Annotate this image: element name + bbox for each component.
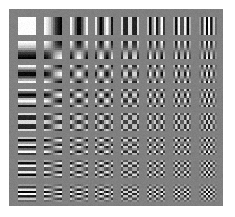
- basis-cell-u2-v2: [70, 65, 88, 83]
- basis-cell-u3-v7: [95, 184, 113, 202]
- basis-cell-u2-v7: [70, 184, 88, 202]
- basis-cell-u5-v6: [147, 160, 165, 178]
- basis-cell-overlay: [9, 9, 223, 206]
- basis-cell-u6-v5: [173, 137, 191, 155]
- basis-cell-u1-v3: [44, 89, 62, 107]
- basis-cell-u7-v7: [199, 184, 217, 202]
- basis-cell-u0-v2: [18, 65, 36, 83]
- basis-cell-u7-v1: [199, 41, 217, 59]
- basis-cell-u2-v4: [70, 113, 88, 131]
- basis-cell-u6-v6: [173, 160, 191, 178]
- basis-cell-u5-v2: [147, 65, 165, 83]
- basis-cell-u3-v4: [95, 113, 113, 131]
- basis-cell-u5-v1: [147, 41, 165, 59]
- basis-cell-u0-v0: [18, 17, 36, 35]
- basis-cell-u6-v0: [173, 17, 191, 35]
- basis-cell-u1-v0: [44, 17, 62, 35]
- basis-cell-u6-v3: [173, 89, 191, 107]
- basis-cell-u5-v0: [147, 17, 165, 35]
- basis-cell-u4-v1: [121, 41, 139, 59]
- basis-cell-u0-v5: [18, 137, 36, 155]
- basis-cell-u3-v3: [95, 89, 113, 107]
- basis-cell-u5-v5: [147, 137, 165, 155]
- basis-cell-u1-v6: [44, 160, 62, 178]
- basis-cell-u4-v5: [121, 137, 139, 155]
- basis-cell-u1-v2: [44, 65, 62, 83]
- basis-cell-u4-v2: [121, 65, 139, 83]
- basis-cell-u3-v1: [95, 41, 113, 59]
- basis-cell-u0-v6: [18, 160, 36, 178]
- basis-cell-u7-v4: [199, 113, 217, 131]
- basis-cell-u1-v7: [44, 184, 62, 202]
- basis-cell-u5-v7: [147, 184, 165, 202]
- dct-basis-figure: horizontal frequency u vertical frequenc…: [0, 0, 235, 217]
- basis-cell-u3-v5: [95, 137, 113, 155]
- basis-cell-u2-v5: [70, 137, 88, 155]
- basis-cell-u4-v3: [121, 89, 139, 107]
- basis-cell-u6-v7: [173, 184, 191, 202]
- basis-cell-u2-v1: [70, 41, 88, 59]
- basis-cell-u5-v3: [147, 89, 165, 107]
- basis-cell-u2-v3: [70, 89, 88, 107]
- basis-cell-u0-v1: [18, 41, 36, 59]
- basis-cell-u2-v6: [70, 160, 88, 178]
- basis-cell-u3-v6: [95, 160, 113, 178]
- basis-cell-u5-v4: [147, 113, 165, 131]
- basis-cell-u2-v0: [70, 17, 88, 35]
- basis-panel: [9, 9, 223, 206]
- basis-cell-u1-v1: [44, 41, 62, 59]
- basis-cell-u4-v7: [121, 184, 139, 202]
- basis-cell-u1-v4: [44, 113, 62, 131]
- basis-cell-u6-v4: [173, 113, 191, 131]
- basis-cell-u0-v4: [18, 113, 36, 131]
- basis-cell-u4-v6: [121, 160, 139, 178]
- basis-cell-u3-v0: [95, 17, 113, 35]
- basis-cell-u7-v5: [199, 137, 217, 155]
- basis-cell-u3-v2: [95, 65, 113, 83]
- basis-cell-u7-v2: [199, 65, 217, 83]
- basis-cell-u1-v5: [44, 137, 62, 155]
- basis-cell-u6-v2: [173, 65, 191, 83]
- basis-cell-u0-v3: [18, 89, 36, 107]
- basis-cell-u7-v6: [199, 160, 217, 178]
- basis-cell-u4-v0: [121, 17, 139, 35]
- basis-cell-u6-v1: [173, 41, 191, 59]
- basis-cell-u7-v3: [199, 89, 217, 107]
- basis-cell-u0-v7: [18, 184, 36, 202]
- basis-cell-u4-v4: [121, 113, 139, 131]
- basis-cell-u7-v0: [199, 17, 217, 35]
